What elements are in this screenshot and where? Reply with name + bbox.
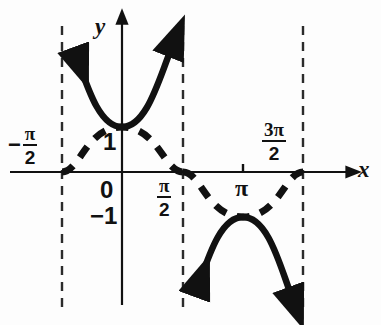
plot-canvas <box>0 0 381 325</box>
x-tick-label-pi: π <box>235 176 248 200</box>
x-tick-label-neg-half-pi: − π 2 <box>8 124 37 168</box>
x-tick-label-three-half-pi: 3π 2 <box>262 120 286 164</box>
y-tick-label-one: 1 <box>103 130 116 154</box>
neg-half-pi-denominator: 2 <box>23 146 37 168</box>
half-pi-denominator: 2 <box>157 198 171 220</box>
three-half-pi-numerator: 3π <box>262 120 286 142</box>
y-tick-label-neg-one: −1 <box>90 204 117 228</box>
secant-upper-branch <box>75 52 122 127</box>
secant-cosine-graph-figure: y x − π 2 π 2 π 3π 2 1 0 −1 <box>0 0 381 325</box>
y-axis-label: y <box>95 15 105 38</box>
x-tick-label-half-pi: π 2 <box>157 176 171 220</box>
minus-sign-glyph: − <box>8 134 21 156</box>
secant-lower-branch-left <box>196 217 243 292</box>
x-axis-label: x <box>358 158 370 181</box>
half-pi-numerator: π <box>157 176 171 198</box>
three-half-pi-denominator: 2 <box>262 142 286 164</box>
origin-label-zero: 0 <box>100 178 113 202</box>
secant-upper-branch-right <box>122 52 170 127</box>
secant-lower-branch-right <box>243 217 290 292</box>
neg-half-pi-numerator: π <box>23 124 37 146</box>
